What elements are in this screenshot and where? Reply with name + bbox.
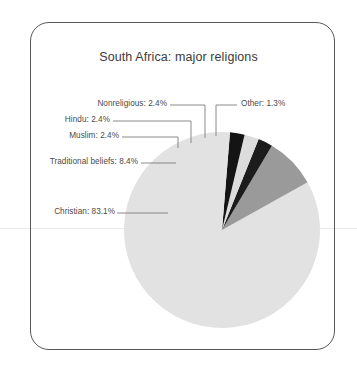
pie-label-nonreligious: Nonreligious: 2.4% bbox=[60, 99, 167, 108]
leader-line-nonreligious bbox=[170, 105, 205, 138]
pie-label-christian: Christian: 83.1% bbox=[6, 207, 115, 216]
pie-label-hindu: Hindu: 2.4% bbox=[6, 115, 110, 124]
pie-slices bbox=[124, 132, 320, 328]
pie-chart-svg bbox=[0, 0, 357, 373]
figure-container: South Africa: major religions bbox=[0, 0, 357, 373]
leader-line-hindu bbox=[113, 121, 191, 143]
pie-label-muslim: Muslim: 2.4% bbox=[6, 131, 119, 140]
pie-label-traditional-beliefs: Traditional beliefs: 8.4% bbox=[6, 157, 138, 166]
leader-line-other bbox=[216, 105, 237, 136]
pie-label-other: Other: 1.3% bbox=[241, 99, 341, 108]
leader-line-muslim bbox=[122, 137, 178, 148]
